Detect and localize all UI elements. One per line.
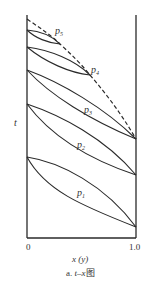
- label-p4: p4: [90, 64, 99, 76]
- x-axis-label: x (y): [71, 254, 88, 264]
- figure-caption: a. t–x图: [66, 268, 95, 278]
- x-tick-0: 0: [26, 242, 31, 252]
- p4-upper-curve: [27, 47, 90, 75]
- critical-dashed-curve: [27, 19, 136, 139]
- p3-upper-curve: [27, 70, 136, 139]
- label-p2: p2: [76, 139, 85, 151]
- p3-lower-curve: [27, 70, 136, 139]
- label-p5: p5: [54, 25, 63, 37]
- t-x-phase-diagram: p5 p4 p3 p2 p1 t 0 1.0 x (y) a. t–x图: [0, 0, 155, 285]
- y-axis-label: t: [14, 117, 17, 128]
- label-p3: p3: [83, 104, 92, 116]
- label-p1: p1: [76, 187, 85, 199]
- x-tick-1: 1.0: [129, 242, 141, 252]
- p4-lower-curve: [27, 47, 90, 75]
